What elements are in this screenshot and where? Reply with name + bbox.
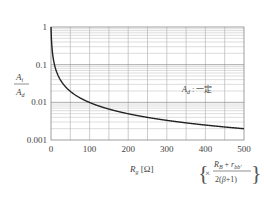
- y-tick-label: 1: [43, 22, 48, 32]
- chart: 10.10.010.001 0100200300400500 Ai Ad Ad …: [0, 0, 264, 202]
- y-tick-label: 0.1: [36, 60, 47, 70]
- svg-text:}: }: [251, 160, 262, 185]
- y-tick-label: 0.01: [31, 97, 47, 107]
- x-tick-label: 100: [83, 144, 97, 154]
- x-tick-label: 0: [49, 144, 54, 154]
- x-tick-label: 500: [237, 144, 251, 154]
- y-axis-ticks: 10.10.010.001: [27, 22, 47, 145]
- svg-text:Ad : 一定: Ad : 一定: [181, 84, 212, 95]
- svg-text:Ad: Ad: [15, 87, 26, 98]
- x-tick-label: 200: [121, 144, 135, 154]
- svg-text:Rg [Ω]: Rg [Ω]: [129, 164, 153, 175]
- svg-text:Ai: Ai: [15, 72, 24, 83]
- x-axis-ticks: 0100200300400500: [49, 144, 252, 154]
- x-unit-note: { } × RB + rbb' 2(β+1): [198, 160, 262, 185]
- x-tick-label: 300: [160, 144, 174, 154]
- y-tick-label: 0.001: [27, 135, 47, 145]
- svg-text:2(β+1): 2(β+1): [215, 175, 237, 184]
- x-tick-label: 400: [199, 144, 213, 154]
- svg-text:×: ×: [205, 168, 210, 178]
- annotation-ad-constant: Ad : 一定: [181, 84, 212, 95]
- x-axis-label: Rg [Ω]: [129, 164, 153, 175]
- grid-lines: [51, 27, 244, 140]
- svg-text:RB + rbb': RB + rbb': [213, 160, 242, 170]
- y-axis-label: Ai Ad: [14, 72, 29, 98]
